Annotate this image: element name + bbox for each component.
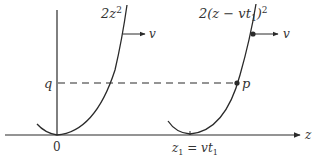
wave-diagram: 2z2 2(z − vt1)2 v v q p 0 z z1 = vt1 (0, 0, 315, 159)
curve2-label: 2(z − vt1)2 (198, 5, 267, 23)
velocity-label-1: v (149, 27, 156, 41)
parabola-2z2 (37, 5, 127, 135)
velocity-label-2: v (283, 27, 290, 41)
z1-label: z1 = vt1 (171, 141, 218, 157)
point-p-label: p (242, 76, 251, 91)
z-axis-label: z (304, 128, 312, 142)
origin-label: 0 (53, 140, 61, 154)
point-q-label: q (44, 76, 52, 91)
parabola-shifted (168, 4, 256, 134)
curve1-label: 2z2 (100, 5, 122, 21)
point-p-dot (234, 80, 239, 85)
